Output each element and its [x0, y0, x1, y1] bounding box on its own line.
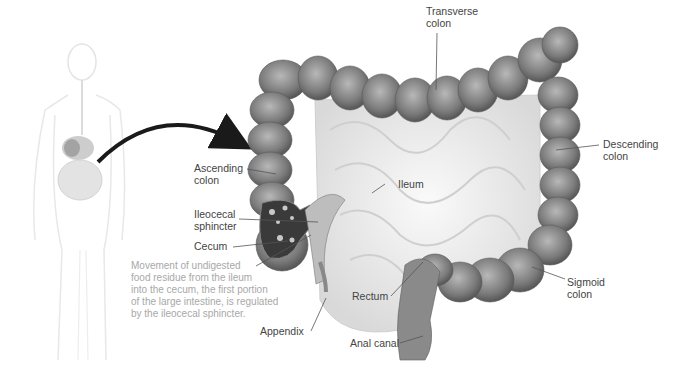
label-transverse-colon: Transverse colon [426, 6, 478, 29]
label-rectum: Rectum [352, 291, 388, 303]
anatomy-illustration [0, 0, 684, 379]
label-anal-canal: Anal canal [350, 338, 399, 350]
caption-note: Movement of undigested food residue from… [131, 260, 278, 320]
label-appendix: Appendix [260, 326, 304, 338]
pointer-arrow [98, 125, 238, 162]
body-silhouette [34, 44, 125, 360]
label-sigmoid-colon: Sigmoid colon [567, 277, 605, 300]
label-descending-colon: Descending colon [603, 139, 658, 162]
label-ileocecal-sphincter: Ileocecal sphincter [194, 209, 237, 232]
diagram-stage: Transverse colon Descending colon Ascend… [0, 0, 684, 379]
label-cecum: Cecum [194, 241, 227, 253]
label-ascending-colon: Ascending colon [194, 163, 243, 186]
label-ileum: Ileum [398, 179, 424, 191]
